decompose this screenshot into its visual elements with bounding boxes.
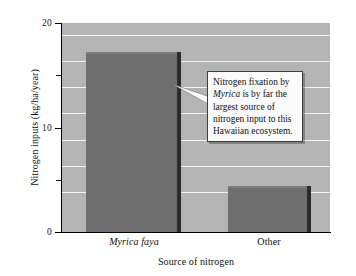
bar-myrica-side-shadow (177, 52, 181, 232)
y-tick-0 (55, 232, 62, 233)
y-tick-label-0: 0 (33, 227, 52, 237)
callout-line-5: Hawaiian ecosystem. (213, 126, 293, 136)
y-tick-20 (55, 23, 62, 24)
gridline-17-5 (62, 35, 330, 36)
bar-other-side-shadow (307, 186, 311, 232)
y-tick-10 (55, 128, 62, 129)
y-tick-15 (56, 75, 62, 76)
callout-line-3: largest source of (213, 102, 275, 112)
y-tick-5 (56, 180, 62, 181)
bar-myrica-top-edge (86, 52, 177, 54)
x-axis-line (61, 232, 331, 233)
chart-figure: 20 10 0 Nitrogen inputs (kg/ha/year) Sou… (0, 0, 356, 276)
category-label-other: Other (228, 236, 310, 247)
bar-other-top-edge (228, 186, 307, 188)
bar-other[interactable] (228, 186, 307, 232)
callout-line-1: Nitrogen fixation by (213, 77, 290, 87)
x-axis-title: Source of nitrogen (62, 256, 330, 267)
category-label-myrica-faya: Myrica faya (86, 236, 182, 247)
bar-myrica-faya[interactable] (86, 52, 177, 232)
callout-line-4: nitrogen input to this (213, 114, 291, 124)
callout-annotation: Nitrogen fixation by Myrica is by far th… (207, 71, 303, 142)
callout-leader-line (172, 84, 210, 106)
y-tick-label-20: 20 (33, 18, 52, 28)
callout-line-2-italic: Myrica (213, 89, 240, 99)
y-axis-title: Nitrogen inputs (kg/ha/year) (29, 28, 40, 228)
callout-line-2-rest: is by far the (240, 89, 287, 99)
